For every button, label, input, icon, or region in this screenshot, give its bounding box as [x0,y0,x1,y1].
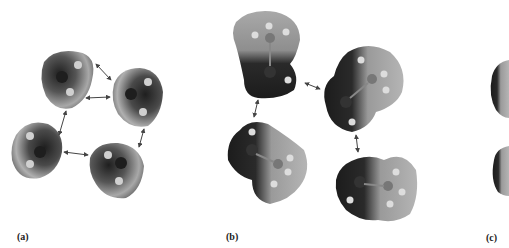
figure-canvas [0,0,509,248]
panel-label-c: (c) [486,232,497,243]
molecule-b2 [324,46,403,132]
molecule-c1 [491,60,509,118]
molecule-a4 [90,143,144,198]
panel-label-a: (a) [17,231,29,242]
panel-label-b: (b) [226,231,238,242]
molecule-a1 [41,51,93,109]
molecule-a2 [113,68,163,127]
molecule-b1 [233,11,300,98]
molecule-a3 [12,122,63,178]
panel-a [12,51,164,198]
panel-c [491,60,509,196]
molecule-b4 [336,157,417,221]
molecule-c2 [493,146,509,196]
panel-b [228,11,417,221]
molecule-b3 [228,122,307,204]
